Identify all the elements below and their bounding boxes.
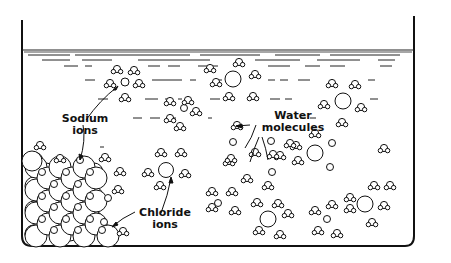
chloride-ions-label: Chloride ions (133, 207, 197, 231)
chloride-ions-label-line2: ions (133, 219, 197, 231)
water-molecules-label: Water molecules (258, 110, 328, 134)
sodium-ions-label: Sodium ions (56, 113, 114, 137)
water-molecules-label-line2: molecules (258, 122, 328, 134)
sodium-ions-label-line2: ions (56, 125, 114, 137)
